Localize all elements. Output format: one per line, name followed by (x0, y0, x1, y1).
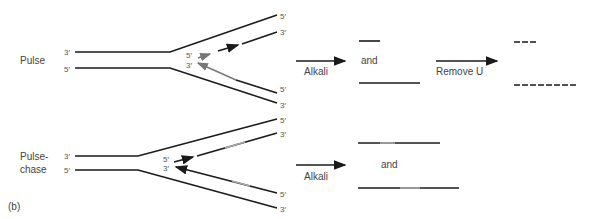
pulse-leading-strand (242, 32, 277, 44)
chase-parent-top-strand (75, 119, 277, 156)
pulse-chase-label-line2: chase (20, 164, 47, 175)
pulse-right-end-3: 5′ (280, 85, 286, 94)
chase-leading-arrow (174, 157, 193, 162)
pulse-parent-bottom-strand (75, 68, 277, 103)
chase-right-end-3: 5′ (280, 190, 286, 199)
pulse-right-end-4: 3′ (280, 101, 286, 110)
pulse-right-end-2: 3′ (280, 28, 286, 37)
pulse-label: Pulse (20, 55, 45, 66)
remove-u-label: Remove U (436, 66, 483, 77)
pulse-left-bottom-end: 5′ (64, 65, 70, 74)
chase-right-end-1: 5′ (280, 116, 286, 125)
chase-and-label: and (381, 159, 398, 170)
pulse-fork-3-end: 3′ (186, 61, 192, 70)
pulse-alkali-label: Alkali (304, 66, 328, 77)
chase-right-end-4: 3′ (280, 205, 286, 214)
chase-lagging-arrow (176, 167, 277, 193)
pulse-lagging-new-arrow (198, 63, 236, 80)
chase-alkali-label: Alkali (304, 171, 328, 182)
chase-left-top-end: 3′ (64, 152, 70, 161)
pulse-chase-label-line1: Pulse- (20, 151, 48, 162)
chase-fork-5-end: 5′ (163, 155, 169, 164)
chase-left-bottom-end: 5′ (64, 166, 70, 175)
chase-leading-joined-gap (225, 142, 245, 148)
chase-parent-bottom-strand (75, 170, 277, 208)
replication-fork-diagram: Pulse 3′ 5′ 5′ 3′ 5′ 3′ 5′ 3′ Alkali and… (0, 0, 598, 219)
pulse-leading-new-segment (218, 45, 238, 51)
chase-fork-3-end: 3′ (163, 164, 169, 173)
panel-label: (b) (8, 201, 20, 212)
pulse-fork-5-end: 5′ (186, 51, 192, 60)
chase-right-end-2: 3′ (280, 130, 286, 139)
pulse-leading-new-arrow (198, 54, 210, 58)
pulse-and-label: and (361, 55, 378, 66)
pulse-parent-top-strand (75, 15, 277, 52)
chase-lagging-joined-gap (232, 181, 250, 186)
pulse-right-end-1: 5′ (280, 12, 286, 21)
pulse-left-top-end: 3′ (64, 48, 70, 57)
